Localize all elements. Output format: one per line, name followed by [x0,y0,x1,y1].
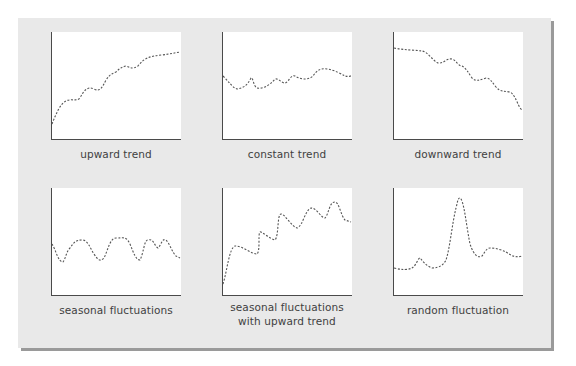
plot-area [393,32,523,140]
trend-patterns-figure: upward trend constant trend downward tre… [18,18,551,348]
chart-label: seasonal fluctuations [202,300,372,314]
plot-area [51,32,181,140]
line-upward-trend [52,32,180,138]
line-random-fluctuation [394,188,522,294]
line-downward-trend [394,32,522,138]
chart-label: downward trend [373,147,543,161]
plot-area [393,188,523,296]
plot-area [222,188,352,296]
chart-label: upward trend [31,147,201,161]
chart-label: constant trend [202,147,372,161]
line-constant-trend [223,32,351,138]
chart-label-line2: with upward trend [202,314,372,328]
line-seasonal-with-upward-trend [223,188,351,294]
chart-label: random fluctuation [373,303,543,317]
chart-label: seasonal fluctuations [31,303,201,317]
plot-area [51,188,181,296]
line-seasonal-fluctuations [52,188,180,294]
plot-area [222,32,352,140]
